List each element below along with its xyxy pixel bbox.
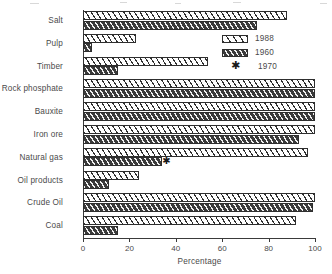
x-axis-line bbox=[83, 238, 316, 239]
x-axis-title: Percentage bbox=[83, 257, 316, 266]
scan-artifact bbox=[320, 3, 327, 4]
category-label: Rock phosphate bbox=[0, 85, 63, 93]
legend-label: 1970 bbox=[258, 60, 277, 73]
bar-1960 bbox=[83, 180, 109, 189]
x-axis-tick-label: 80 bbox=[264, 244, 273, 253]
x-axis-tick-label: 0 bbox=[81, 244, 85, 253]
bar-1960 bbox=[83, 43, 92, 52]
scan-artifact bbox=[233, 2, 241, 3]
x-axis-tick bbox=[176, 238, 177, 242]
bar-1988 bbox=[83, 216, 296, 225]
chart-category-row: Rock phosphate bbox=[83, 78, 315, 101]
category-label: Pulp bbox=[0, 40, 63, 48]
x-axis-tick-label: 40 bbox=[171, 244, 180, 253]
bar-1960 bbox=[83, 135, 299, 144]
legend-item: ✱1970 bbox=[222, 60, 318, 74]
category-label: Crude Oil bbox=[0, 199, 63, 207]
x-axis-tick-label: 20 bbox=[125, 244, 134, 253]
bar-1960 bbox=[83, 226, 118, 235]
asterisk-icon: ✱ bbox=[231, 59, 240, 73]
legend-label: 1960 bbox=[255, 46, 274, 59]
chart-category-row: Bauxite bbox=[83, 101, 315, 124]
category-label: Coal bbox=[0, 222, 63, 230]
legend-swatch bbox=[222, 49, 248, 57]
category-label: Bauxite bbox=[0, 108, 63, 116]
bar-1988 bbox=[83, 102, 315, 111]
chart-category-row: Oil products bbox=[83, 170, 315, 193]
scan-artifact bbox=[175, 3, 181, 4]
bar-1960 bbox=[83, 203, 313, 212]
marker-1970: ✱ bbox=[162, 156, 170, 166]
category-label: Natural gas bbox=[0, 154, 63, 162]
bar-1960 bbox=[83, 21, 257, 30]
percentage-bar-chart: SaltPulpTimberRock phosphateBauxiteIron … bbox=[0, 0, 332, 274]
bar-1960 bbox=[83, 157, 162, 166]
x-axis-tick bbox=[83, 238, 84, 242]
bar-1960 bbox=[83, 89, 315, 98]
legend-item: 1988 bbox=[222, 32, 318, 46]
x-axis-tick bbox=[315, 238, 316, 242]
bar-1960 bbox=[83, 112, 315, 121]
bar-1988 bbox=[83, 148, 308, 157]
chart-category-row: Crude Oil bbox=[83, 192, 315, 215]
bar-1988 bbox=[83, 34, 136, 43]
x-axis-tick bbox=[222, 238, 223, 242]
x-axis-tick bbox=[129, 238, 130, 242]
x-axis-tick-label: 60 bbox=[218, 244, 227, 253]
legend-item: 1960 bbox=[222, 46, 318, 60]
category-label: Iron ore bbox=[0, 131, 63, 139]
chart-category-row: Iron ore bbox=[83, 124, 315, 147]
bar-1988 bbox=[83, 57, 208, 66]
category-label: Oil products bbox=[0, 177, 63, 185]
bar-1988 bbox=[83, 193, 315, 202]
x-axis-tick bbox=[269, 238, 270, 242]
category-label: Timber bbox=[0, 63, 63, 71]
chart-category-row: Natural gas✱ bbox=[83, 147, 315, 170]
legend-label: 1988 bbox=[255, 32, 274, 45]
scan-artifact bbox=[120, 2, 127, 3]
x-axis-tick-label: 100 bbox=[308, 244, 321, 253]
chart-legend: 19881960✱1970 bbox=[222, 32, 318, 74]
bar-1988 bbox=[83, 125, 315, 134]
bar-1988 bbox=[83, 79, 315, 88]
category-label: Salt bbox=[0, 17, 63, 25]
scan-artifact bbox=[30, 3, 39, 4]
bar-1988 bbox=[83, 171, 139, 180]
legend-swatch bbox=[222, 35, 248, 43]
bar-1988 bbox=[83, 11, 287, 20]
bar-1960 bbox=[83, 66, 118, 75]
chart-category-row: Salt bbox=[83, 10, 315, 33]
chart-category-row: Coal bbox=[83, 215, 315, 238]
